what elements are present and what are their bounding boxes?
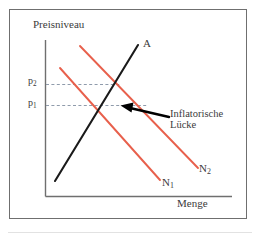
bottom-divider (8, 232, 252, 233)
curve-demand-n2 (80, 46, 198, 168)
inflationary-gap-line1: Inflatorische (170, 108, 223, 119)
curve-label-n2-main: N (199, 162, 207, 174)
curve-label-a: A (143, 38, 151, 50)
inflationary-gap-label: InflatorischeLücke (170, 108, 223, 131)
curve-supply-a (55, 45, 138, 181)
inflationary-gap-arrow (121, 103, 170, 118)
inflationary-gap-line2: Lücke (170, 119, 223, 130)
price-level-p2-sub: 2 (33, 80, 37, 88)
curve-label-n1-sub: 1 (170, 181, 174, 190)
price-level-label-p1: p1 (28, 98, 37, 110)
price-level-p1-sub: 1 (33, 102, 37, 110)
curve-demand-n1 (60, 68, 160, 180)
y-axis-label: Preisniveau (33, 19, 84, 31)
price-level-label-p2: p2 (28, 76, 37, 88)
curve-label-n2: N2 (199, 163, 211, 176)
figure-root: Preisniveau Menge A N1 N2 p2 p1 Inflator… (0, 0, 261, 238)
x-axis-label: Menge (177, 198, 208, 210)
curve-label-n1: N1 (162, 177, 174, 190)
curve-label-n1-main: N (162, 176, 170, 188)
curve-label-n2-sub: 2 (207, 167, 211, 176)
